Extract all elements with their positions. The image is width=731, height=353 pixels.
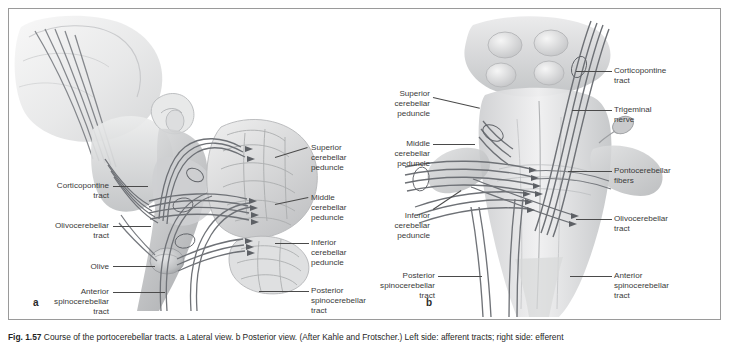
panel-a-leader-anterior-spinocerebellar-tract — [113, 292, 165, 293]
panel-b-label-superior-cerebellar-peduncle: Superior cerebellar peduncle — [365, 89, 430, 119]
panel-b-leader-trigeminal-nerve — [572, 110, 612, 111]
panel-b-label-trigeminal-nerve: Trigeminal nerve — [614, 105, 714, 125]
panel-a-leader-corticopontine-tract — [113, 186, 148, 187]
panel-b-label-pontocerebellar-fibers: Pontocerebellar fibers — [614, 166, 714, 186]
figure-plate: a Corticopontine tract Olivocerebellar t… — [8, 8, 721, 320]
panel-b-label-inferior-cerebellar-peduncle: Inferior cerebellar peduncle — [365, 211, 430, 241]
caption-figure-number: Fig. 1.57 — [8, 332, 42, 342]
superior-colliculus-right — [534, 30, 568, 56]
panel-b-label-middle-cerebellar-peduncle: Middle cerebellar peduncle — [365, 139, 430, 169]
figure-root: a Corticopontine tract Olivocerebellar t… — [0, 0, 731, 353]
inferior-colliculus-right — [534, 61, 564, 85]
figure-caption: Fig. 1.57 Course of the portocerebellar … — [8, 332, 721, 353]
panel-b-leader-posterior-spinocerebellar-tract — [438, 276, 482, 277]
caption-body: Course of the portocerebellar tracts. a … — [42, 332, 564, 342]
panel-b-leader-anterior-spinocerebellar-tract — [570, 276, 612, 277]
panel-a-leader-olivocerebellar-tract — [113, 226, 151, 227]
panel-b-leader-corticopontine-tract — [576, 71, 612, 72]
panel-b-leader-middle-cerebellar-peduncle — [433, 144, 475, 145]
panel-a-label-anterior-spinocerebellar-tract: Anterior spinocerebellar tract — [9, 287, 109, 317]
panel-b-label-corticopontine-tract: Corticopontine tract — [614, 66, 714, 86]
panel-b-leader-olivocerebellar-tract — [576, 219, 612, 220]
panel-a-label-inferior-cerebellar-peduncle: Inferior cerebellar peduncle — [311, 238, 371, 268]
panel-b-posterior-view: b Superior cerebellar peduncle Middle ce… — [365, 9, 720, 319]
panel-a-label-olive: Olive — [9, 262, 109, 272]
panel-a-label-superior-cerebellar-peduncle: Superior cerebellar peduncle — [311, 143, 371, 173]
panel-a-label-olivocerebellar-tract: Olivocerebellar tract — [9, 221, 109, 241]
superior-colliculus-left — [488, 32, 522, 58]
inferior-colliculus-left — [486, 63, 516, 87]
panel-b-leader-pontocerebellar-fibers — [568, 171, 612, 172]
panel-a-leader-posterior-spinocerebellar-tract — [259, 291, 309, 292]
panel-b-label-olivocerebellar-tract: Olivocerebellar tract — [614, 214, 714, 234]
panel-a-label-middle-cerebellar-peduncle: Middle cerebellar peduncle — [311, 193, 371, 223]
panel-a-leader-olive — [113, 266, 155, 267]
panel-a-lateral-view: a Corticopontine tract Olivocerebellar t… — [9, 9, 365, 319]
panel-b-label-anterior-spinocerebellar-tract: Anterior spinocerebellar tract — [614, 271, 714, 301]
panel-a-label-corticopontine-tract: Corticopontine tract — [9, 181, 109, 201]
panel-b-label-posterior-spinocerebellar-tract: Posterior spinocerebellar tract — [365, 271, 435, 301]
panel-a-leader-inferior-cerebellar-peduncle — [275, 243, 309, 244]
